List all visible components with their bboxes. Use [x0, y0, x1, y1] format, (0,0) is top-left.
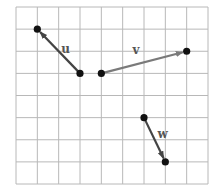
- vector-v-label: v: [132, 43, 141, 57]
- vector-u-label: u: [61, 42, 70, 56]
- grid: [16, 7, 208, 184]
- vector-v-tail-point: [98, 70, 105, 77]
- vector-diagram: uvw: [0, 0, 219, 194]
- vector-w-tail-point: [140, 114, 147, 121]
- vector-u-head-point: [34, 26, 41, 33]
- vector-w-head-point: [162, 158, 169, 165]
- vector-v-arrow: [101, 52, 182, 73]
- vector-v-head-point: [183, 48, 190, 55]
- vector-u-arrow: [40, 32, 80, 73]
- vector-u-tail-point: [76, 70, 83, 77]
- vector-w-label: w: [156, 127, 168, 141]
